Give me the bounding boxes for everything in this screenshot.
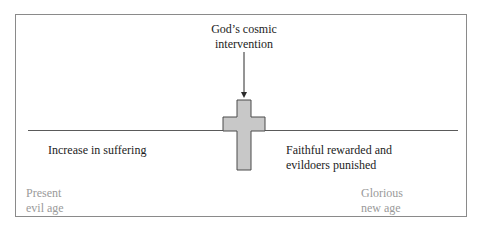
right-event-label-line1: Faithful rewarded and: [286, 143, 392, 158]
left-age-line2: evil age: [26, 201, 64, 216]
right-event-label-line2: evildoers punished: [286, 158, 392, 173]
cross-icon: [223, 100, 265, 170]
right-age-label: Glorious new age: [361, 186, 403, 216]
diagram-graphics: [0, 0, 482, 231]
left-age-line1: Present: [26, 186, 64, 201]
right-age-line2: new age: [361, 201, 403, 216]
left-age-label: Present evil age: [26, 186, 64, 216]
arrow-down-icon: [241, 52, 247, 98]
right-age-line1: Glorious: [361, 186, 403, 201]
right-event-label: Faithful rewarded and evildoers punished: [286, 143, 392, 173]
left-event-label: Increase in suffering: [48, 143, 146, 158]
